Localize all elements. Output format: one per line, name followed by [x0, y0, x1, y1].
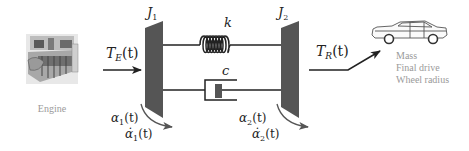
engine-caption: Engine: [38, 103, 67, 114]
angle-1-label: α1(t): [111, 111, 138, 127]
input-torque-label: TE(t): [106, 45, 138, 63]
vehicle-caption-final-drive: Final drive: [396, 62, 440, 73]
output-torque-label: TR(t): [316, 43, 349, 61]
engine-icon: [26, 34, 78, 84]
drivetrain-diagram: Engine TE(t) J1 J2 k c α1(t) α̇1(t) α2(t…: [0, 0, 469, 151]
vehicle-caption-wheel-radius: Wheel radius: [396, 74, 449, 85]
angular-rate-2-label: α̇2(t): [252, 127, 279, 143]
damper-label: c: [222, 63, 230, 78]
vehicle-caption-mass: Mass: [396, 50, 417, 61]
angular-rate-1-label: α̇1(t): [125, 127, 152, 143]
damper-piston: [215, 84, 222, 98]
inertia-1-disk: [145, 21, 163, 118]
spring: [163, 36, 281, 53]
inertia-2-disk: [281, 21, 299, 118]
angle-2-label: α2(t): [239, 111, 266, 127]
car-icon: [372, 21, 447, 44]
spring-label: k: [224, 15, 232, 30]
inertia-2-label: J2: [275, 5, 288, 22]
inertia-1-label: J1: [144, 5, 157, 22]
